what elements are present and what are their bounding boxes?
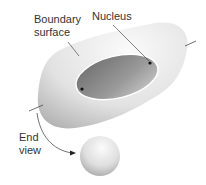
boundary-surface-label: Boundary surface bbox=[34, 13, 81, 39]
nucleus-label: Nucleus bbox=[92, 10, 132, 23]
end-view-label: End view bbox=[19, 131, 41, 157]
boundary-label-line2: surface bbox=[34, 26, 81, 39]
end-view-label-line1: End bbox=[19, 131, 41, 144]
end-view-label-line2: view bbox=[19, 144, 41, 157]
nucleus-dot bbox=[148, 61, 151, 64]
nucleus-dot-2 bbox=[80, 87, 83, 90]
orbital-diagram bbox=[0, 0, 206, 185]
boundary-label-line1: Boundary bbox=[34, 13, 81, 26]
end-view-sphere bbox=[80, 136, 120, 176]
arrow-head-icon bbox=[70, 151, 76, 156]
